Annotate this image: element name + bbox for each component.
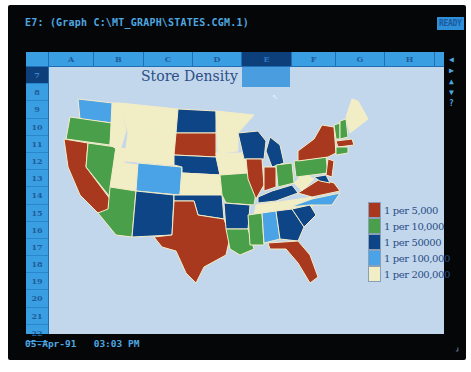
column-header-bar: A B C D E F G H: [26, 52, 444, 67]
state-ar: [224, 203, 250, 229]
state-me: [346, 99, 368, 133]
state-wy: [124, 133, 176, 165]
row-header-8[interactable]: 8: [26, 84, 48, 101]
us-choropleth-map[interactable]: [58, 87, 368, 302]
row-header-15[interactable]: 15: [26, 205, 48, 222]
cell-reference-line: E7: (Graph C:\MT_GRAPH\STATES.CGM.1): [25, 17, 249, 28]
spreadsheet-grid: A B C D E F G H 7 8 9 10 11 12 13 14 15 …: [26, 52, 444, 334]
state-mi: [266, 137, 284, 167]
resize-handle-icon[interactable]: ┘: [456, 347, 460, 354]
column-header-c[interactable]: C: [144, 52, 193, 66]
column-header-g[interactable]: G: [336, 52, 385, 66]
state-nd: [176, 109, 216, 133]
row-header-17[interactable]: 17: [26, 239, 48, 256]
row-header-11[interactable]: 11: [26, 136, 48, 153]
legend-label: 1 per 5,000: [384, 205, 438, 216]
chart-title: Store Density: [141, 68, 238, 84]
row-header-20[interactable]: 20: [26, 290, 48, 307]
select-all-corner[interactable]: [26, 52, 49, 66]
legend-item: 1 per 5,000: [368, 202, 450, 218]
legend-label: 1 per 50000: [384, 237, 441, 248]
state-ma: [336, 139, 354, 147]
legend-item: 1 per 10,000: [368, 218, 450, 234]
state-ks: [180, 173, 222, 195]
row-header-21[interactable]: 21: [26, 308, 48, 325]
state-ms: [248, 213, 264, 245]
state-ny: [298, 125, 336, 161]
column-header-e[interactable]: E: [242, 52, 292, 66]
column-header-f[interactable]: F: [292, 52, 336, 66]
state-oh: [276, 163, 294, 187]
scroll-down-icon[interactable]: ▼: [449, 88, 454, 97]
row-header-14[interactable]: 14: [26, 187, 48, 204]
row-header-12[interactable]: 12: [26, 153, 48, 170]
state-nm: [132, 191, 174, 237]
state-nj: [326, 159, 334, 177]
legend-swatch-green: [368, 218, 381, 234]
row-header-10[interactable]: 10: [26, 119, 48, 136]
date-time-display: 05-Apr-91 03:03 PM: [25, 338, 139, 349]
scroll-right-icon[interactable]: ▶: [449, 66, 454, 75]
column-header-b[interactable]: B: [94, 52, 144, 66]
state-sd: [174, 133, 216, 157]
legend-item: 1 per 200,000: [368, 266, 450, 282]
legend-swatch-cream: [368, 266, 381, 282]
state-fl: [268, 241, 318, 283]
legend-item: 1 per 50000: [368, 234, 450, 250]
scroll-up-icon[interactable]: ▲: [449, 77, 454, 86]
row-header-13[interactable]: 13: [26, 170, 48, 187]
column-header-h[interactable]: H: [385, 52, 435, 66]
map-legend: 1 per 5,000 1 per 10,000 1 per 50000 1 p…: [368, 202, 450, 282]
state-in: [264, 167, 276, 191]
scroll-left-icon[interactable]: ◀: [449, 55, 454, 64]
scroll-controls: ◀ ▶ ▲ ▼ ?: [449, 55, 454, 108]
legend-swatch-dark-blue: [368, 234, 381, 250]
state-co: [136, 163, 182, 195]
mode-indicator: READY: [437, 17, 464, 30]
row-header-16[interactable]: 16: [26, 222, 48, 239]
legend-label: 1 per 200,000: [384, 269, 450, 280]
time-text: 03:03 PM: [94, 338, 140, 349]
row-header-18[interactable]: 18: [26, 256, 48, 273]
column-header-d[interactable]: D: [193, 52, 242, 66]
column-header-a[interactable]: A: [49, 52, 94, 66]
help-icon[interactable]: ?: [449, 99, 454, 108]
state-mt: [120, 103, 178, 137]
date-text: 05-Apr-91: [25, 338, 76, 349]
state-ct: [336, 147, 348, 155]
legend-swatch-red: [368, 202, 381, 218]
row-header-7[interactable]: 7: [26, 67, 48, 84]
legend-label: 1 per 10,000: [384, 221, 444, 232]
row-header-9[interactable]: 9: [26, 101, 48, 118]
row-header-19[interactable]: 19: [26, 273, 48, 290]
legend-swatch-light-blue: [368, 250, 381, 266]
row-header-bar: 7 8 9 10 11 12 13 14 15 16 17 18 19 20 2…: [26, 67, 49, 334]
legend-item: 1 per 100,000: [368, 250, 450, 266]
legend-label: 1 per 100,000: [384, 253, 450, 264]
selected-cell-e7[interactable]: [242, 67, 290, 87]
